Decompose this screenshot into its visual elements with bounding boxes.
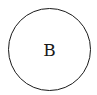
diagram-node-b: B xyxy=(8,8,91,91)
node-label: B xyxy=(43,42,56,59)
